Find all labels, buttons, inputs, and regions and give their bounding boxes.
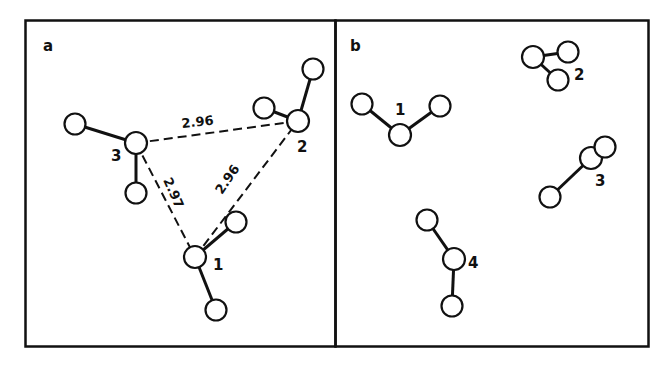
oxygen-atom [522, 46, 544, 68]
hydrogen-atom [430, 96, 451, 117]
hydrogen-atom [254, 98, 275, 119]
hydrogen-atom [352, 94, 373, 115]
oxygen-atom [287, 110, 309, 132]
molecule-label: 1 [395, 101, 405, 119]
oxygen-atom [125, 132, 147, 154]
hydrogen-atom [226, 212, 247, 233]
atoms [65, 42, 616, 321]
oxygen-atom [389, 124, 411, 146]
molecule-label: 2 [297, 138, 307, 156]
hydrogen-atom [206, 300, 227, 321]
distance-label: 2.96 [181, 113, 214, 131]
panel-b-label: b [350, 37, 361, 55]
hydrogen-atom [558, 42, 579, 63]
hydrogen-atom [65, 114, 86, 135]
panel-a-label: a [43, 37, 53, 55]
hbond-dashed-line [195, 121, 298, 257]
hydrogen-atom [595, 137, 616, 158]
molecule-label: 1 [213, 256, 223, 274]
molecule-label: 3 [111, 147, 121, 165]
covalent-bonds [75, 52, 605, 310]
molecule-label: 2 [574, 66, 584, 84]
water-cluster-diagram: a b 1232.962.972.961234 [0, 0, 669, 366]
distance-label: 2.96 [212, 162, 242, 197]
hydrogen-atom [548, 70, 569, 91]
oxygen-atom [184, 246, 206, 268]
oxygen-atom [443, 248, 465, 270]
panel-a-frame [26, 21, 336, 347]
hydrogen-atom [540, 187, 561, 208]
molecule-label: 4 [468, 254, 478, 272]
hydrogen-atom [417, 210, 438, 231]
hydrogen-atom [303, 59, 324, 80]
molecule-label: 3 [595, 172, 605, 190]
hbond-dashed-line [136, 121, 298, 143]
hydrogen-atom [126, 183, 147, 204]
hydrogen-atom [442, 296, 463, 317]
distance-label: 2.97 [160, 175, 187, 210]
